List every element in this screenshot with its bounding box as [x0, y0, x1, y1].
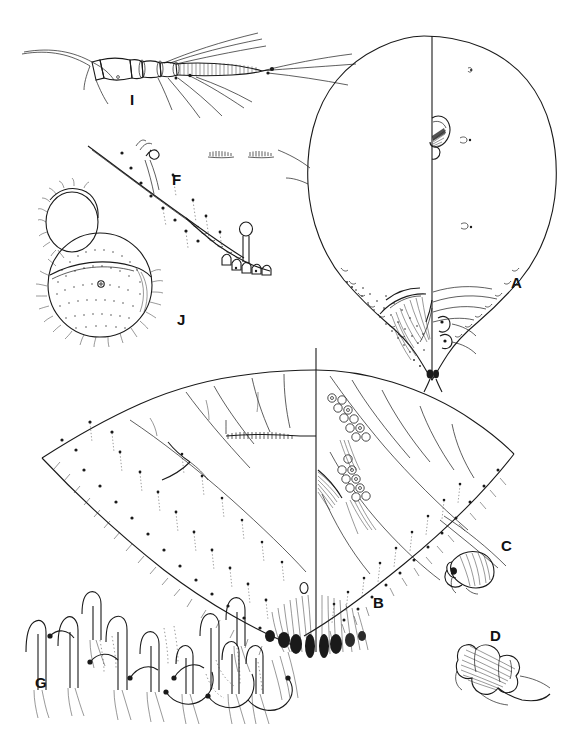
panel-label-C: C — [501, 538, 512, 553]
panel-label-A: A — [511, 275, 522, 290]
panel-label-I: I — [130, 92, 134, 107]
illustration-plate: I F J A B C D G — [0, 0, 581, 746]
panel-label-D: D — [490, 628, 501, 643]
panel-label-J: J — [177, 312, 186, 327]
panel-label-B: B — [373, 595, 384, 610]
panel-label-F: F — [172, 172, 181, 187]
panel-label-G: G — [35, 675, 47, 690]
